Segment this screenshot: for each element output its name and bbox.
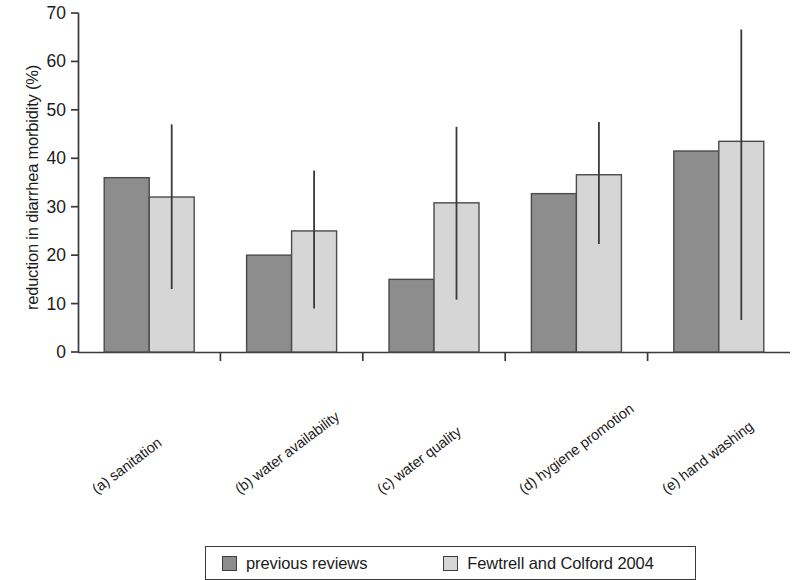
bar-previous-reviews	[531, 194, 576, 352]
legend-entry-previous-reviews: previous reviews	[222, 554, 367, 573]
bar-previous-reviews	[389, 279, 434, 352]
x-axis-label: (d) hygiene promotion	[516, 400, 637, 496]
legend-entry-fewtrell-colford-2004: Fewtrell and Colford 2004	[443, 554, 653, 573]
bar-chart: reduction in diarrhea morbidity (%) 70 6…	[0, 0, 807, 580]
legend-swatch-icon	[222, 556, 237, 571]
legend-label: Fewtrell and Colford 2004	[467, 554, 653, 573]
chart-legend: previous reviews Fewtrell and Colford 20…	[205, 546, 696, 580]
bar-previous-reviews	[674, 151, 719, 352]
chart-bars	[104, 141, 764, 352]
x-axis-label: (a) sanitation	[89, 434, 164, 496]
x-axis-label: (c) water quality	[374, 423, 464, 496]
x-axis-label: (e) hand washing	[659, 418, 756, 497]
x-axis-label: (b) water availability	[232, 408, 342, 497]
legend-label: previous reviews	[246, 554, 367, 573]
bar-previous-reviews	[247, 255, 292, 352]
plot-area	[0, 0, 807, 380]
bar-previous-reviews	[104, 178, 149, 352]
legend-swatch-icon	[443, 556, 458, 571]
